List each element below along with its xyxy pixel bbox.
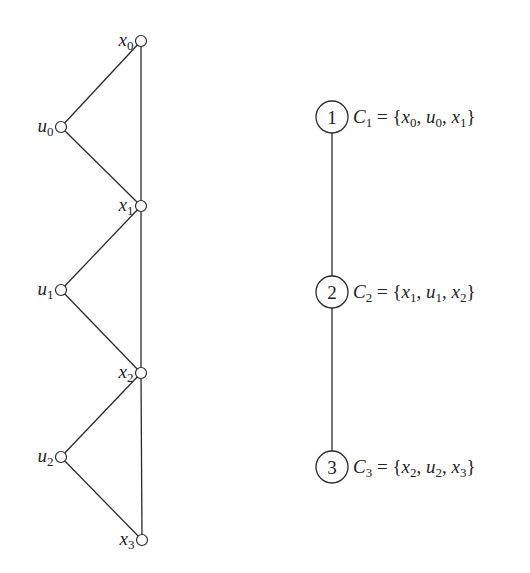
vertex-label: x0 <box>118 29 134 53</box>
clique-set-label: C3 = {x2, u2, x3} <box>353 456 476 480</box>
clique-node-1: 1C1 = {x0, u0, x1} <box>316 101 476 133</box>
edge-u2-x3 <box>61 457 142 540</box>
vertex-circle <box>56 122 67 133</box>
vertex-label: x1 <box>118 194 134 218</box>
edge-x0-u0 <box>61 41 141 127</box>
vertex-label: x2 <box>118 361 134 385</box>
vertex-circle <box>136 201 147 212</box>
vertex-label: x3 <box>119 528 135 552</box>
edge-x1-u1 <box>61 206 141 290</box>
vertex-circle <box>56 285 67 296</box>
clique-node-3: 3C3 = {x2, u2, x3} <box>316 451 476 483</box>
edge-x2-x3 <box>141 373 142 540</box>
clique-number: 1 <box>327 107 337 128</box>
vertex-circle <box>136 368 147 379</box>
vertex-x0: x0 <box>118 29 147 53</box>
clique-set-label: C1 = {x0, u0, x1} <box>353 106 476 130</box>
edge-x2-u2 <box>61 373 141 457</box>
vertex-label: u2 <box>38 445 54 469</box>
vertex-circle <box>136 36 147 47</box>
clique-tree-nodes: 1C1 = {x0, u0, x1}2C2 = {x1, u1, x2}3C3 … <box>316 101 476 483</box>
clique-set-label: C2 = {x1, u1, x2} <box>353 281 476 305</box>
graph-vertices: x0u0x1u1x2u2x3 <box>38 29 148 552</box>
graph-and-clique-tree-diagram: x0u0x1u1x2u2x3 1C1 = {x0, u0, x1}2C2 = {… <box>0 0 530 573</box>
vertex-circle <box>137 535 148 546</box>
vertex-label: u0 <box>38 115 54 139</box>
vertex-u1: u1 <box>38 278 67 302</box>
vertex-u0: u0 <box>38 115 67 139</box>
edge-u0-x1 <box>61 127 141 206</box>
vertex-label: u1 <box>38 278 54 302</box>
clique-number: 3 <box>327 457 337 478</box>
edge-u1-x2 <box>61 290 141 373</box>
graph-edges <box>61 41 142 540</box>
vertex-u2: u2 <box>38 445 67 469</box>
clique-node-2: 2C2 = {x1, u1, x2} <box>316 276 476 308</box>
vertex-circle <box>56 452 67 463</box>
clique-number: 2 <box>327 282 337 303</box>
